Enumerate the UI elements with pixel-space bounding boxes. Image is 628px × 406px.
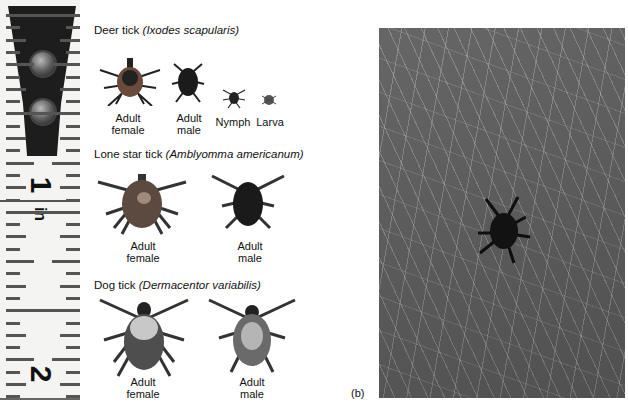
- ruler-tick: [6, 174, 20, 177]
- ruler-tick: [6, 149, 20, 152]
- scientific-name: (Ixodes scapularis): [143, 24, 240, 36]
- specimen-label: Larva: [240, 116, 300, 128]
- ruler-tick: [6, 39, 26, 42]
- ruler-tick: [6, 63, 34, 66]
- ruler-tick: [6, 235, 26, 238]
- ruler-tick: [6, 137, 26, 140]
- ruler-tick: [66, 272, 80, 275]
- ruler-tick: [6, 371, 20, 374]
- ruler-tick: [60, 383, 80, 386]
- lone-star-tick-adult-male-image: [208, 170, 288, 234]
- ruler-tick: [52, 260, 80, 263]
- ruler-number-1: 1: [24, 177, 58, 194]
- ruler-tick: [60, 186, 80, 189]
- deer-tick-title: Deer tick (Ixodes scapularis): [94, 24, 239, 36]
- ruler-tick: [66, 223, 80, 226]
- ruler-tick: [6, 186, 26, 189]
- ruler-tick: [66, 346, 80, 349]
- ruler-tick: [60, 39, 80, 42]
- ruler-tick: [42, 309, 80, 312]
- ruler-tick: [6, 322, 20, 325]
- ruler-tick: [60, 235, 80, 238]
- ruler-tick: [6, 100, 20, 103]
- dog-tick-adult-female-image: [94, 296, 194, 380]
- lone-star-tick-title: Lone star tick (Amblyomma americanum): [94, 148, 304, 160]
- ruler-tick: [60, 137, 80, 140]
- measuring-tape-ruler: 1 in 2: [0, 0, 80, 400]
- tick-on-skin-photo: [379, 28, 625, 398]
- ruler-tick: [6, 199, 20, 202]
- scientific-name: (Dermacentor variabilis): [139, 279, 261, 291]
- ruler-tick: [6, 260, 34, 263]
- ruler-tick: [6, 272, 20, 275]
- embedded-tick-image: [474, 193, 534, 265]
- specimen-label: Adultfemale: [113, 240, 173, 264]
- dog-tick-title: Dog tick (Dermacentor variabilis): [94, 279, 261, 291]
- lone-star-tick-adult-female-image: [92, 168, 192, 236]
- ruler-tick: [66, 395, 80, 398]
- ruler-tick: [6, 211, 44, 214]
- ruler-tick: [52, 358, 80, 361]
- scientific-name: (Amblyomma americanum): [166, 148, 304, 160]
- ruler-tick: [66, 149, 80, 152]
- ruler-tick: [6, 14, 44, 17]
- specimen-label: Adultfemale: [98, 112, 158, 136]
- common-name: Deer tick: [94, 24, 139, 36]
- common-name: Lone star tick: [94, 148, 162, 160]
- specimen-label: Adultfemale: [113, 376, 173, 400]
- deer-tick-adult-male-image: [168, 58, 208, 108]
- ruler-tick: [6, 112, 44, 115]
- ruler-tick: [6, 76, 20, 79]
- ruler-tick: [6, 334, 26, 337]
- ruler-tick: [52, 63, 80, 66]
- ruler-tick: [66, 51, 80, 54]
- ruler-tick: [66, 199, 80, 202]
- ruler-tick: [6, 88, 26, 91]
- ruler-tick: [42, 14, 80, 17]
- ruler-tick: [60, 88, 80, 91]
- ruler-tick: [66, 297, 80, 300]
- ruler-tick: [6, 125, 20, 128]
- ruler-tick: [42, 112, 80, 115]
- ruler-tick: [6, 285, 26, 288]
- ruler-tick: [6, 346, 20, 349]
- ruler-tick: [6, 26, 20, 29]
- ruler-tick: [66, 371, 80, 374]
- specimen-label: Adultmale: [220, 240, 280, 264]
- ruler-tick: [66, 26, 80, 29]
- specimen-label: Adultmale: [222, 376, 282, 400]
- ruler-tick: [6, 162, 34, 165]
- deer-tick-adult-female-image: [90, 52, 170, 106]
- ruler-tick: [6, 223, 20, 226]
- ruler-tick: [60, 285, 80, 288]
- panel-b-label: (b): [351, 387, 364, 399]
- ruler-tick: [66, 125, 80, 128]
- deer-tick-larva-image: [260, 92, 278, 108]
- ruler-tick: [6, 51, 20, 54]
- ruler-tick: [66, 248, 80, 251]
- ruler-tick: [66, 100, 80, 103]
- ruler-tick: [66, 76, 80, 79]
- ruler-unit: in: [31, 207, 49, 221]
- dog-tick-adult-male-image: [205, 296, 299, 376]
- ruler-tick: [66, 322, 80, 325]
- ruler-number-2: 2: [24, 366, 58, 383]
- ruler-tick: [6, 297, 20, 300]
- ruler-tick: [6, 248, 20, 251]
- ruler-tick: [6, 383, 26, 386]
- ruler-tick: [6, 358, 34, 361]
- deer-tick-nymph-image: [220, 86, 248, 110]
- ruler-tick: [6, 395, 20, 398]
- ruler-tick: [60, 334, 80, 337]
- ruler-tick: [52, 162, 80, 165]
- ruler-tick: [66, 174, 80, 177]
- ruler-tick: [42, 211, 80, 214]
- common-name: Dog tick: [94, 279, 136, 291]
- ruler-tick: [6, 309, 44, 312]
